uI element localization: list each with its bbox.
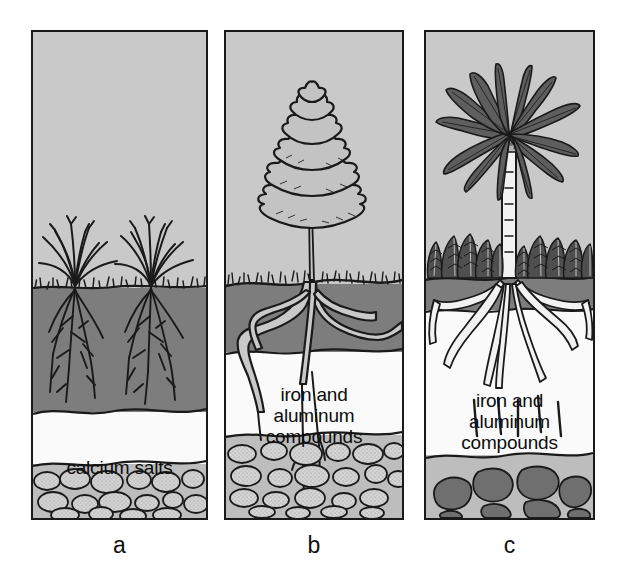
panel-b: iron and aluminum compounds xyxy=(224,30,404,520)
caption-a: a xyxy=(31,532,208,559)
caption-b: b xyxy=(224,532,404,559)
caption-c: c xyxy=(424,532,595,559)
panel-a: calcium salts xyxy=(31,30,208,520)
panel-c-artwork xyxy=(426,32,593,518)
panel-b-artwork xyxy=(226,32,402,518)
panel-c: iron and aluminum compounds xyxy=(424,30,595,520)
panel-a-artwork xyxy=(33,32,206,518)
soil-profiles-figure: calcium salts xyxy=(0,0,622,581)
